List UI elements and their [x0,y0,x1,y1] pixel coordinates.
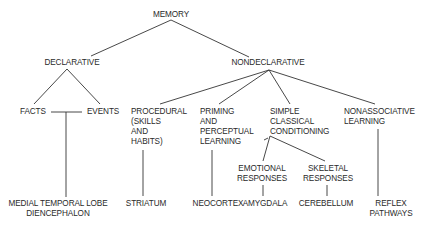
node-priming-line1: PRIMING [200,107,254,117]
node-procedural-line3: AND [131,127,187,137]
node-simple-line2: CLASSICAL [270,117,329,127]
node-emotional-responses: EMOTIONAL RESPONSES [237,164,287,184]
node-simple-line3: CONDITIONING [270,127,329,137]
node-procedural-line2: (SKILLS [131,117,187,127]
node-skeletal-responses: SKELETAL RESPONSES [303,164,353,184]
node-nonassociative-line2: LEARNING [344,117,415,127]
node-simple-line1: SIMPLE [270,107,329,117]
node-reflex-line1: REFLEX [369,199,412,209]
node-facts: FACTS [20,107,46,117]
node-nonassociative: NONASSOCIATIVE LEARNING [344,107,415,127]
node-priming-line4: LEARNING [200,137,254,147]
node-mtl-line2: DIENCEPHALON [8,209,107,219]
node-events: EVENTS [87,107,119,117]
node-emotional-line2: RESPONSES [237,174,287,184]
node-striatum: STRIATUM [126,199,166,209]
node-priming-line2: AND [200,117,254,127]
node-procedural: PROCEDURAL (SKILLS AND HABITS) [131,107,187,147]
node-medial-temporal-lobe: MEDIAL TEMPORAL LOBE DIENCEPHALON [8,199,107,219]
node-cerebellum: CEREBELLUM [299,199,354,209]
node-simple-classical-conditioning: SIMPLE CLASSICAL CONDITIONING [270,107,329,137]
node-reflex-pathways: REFLEX PATHWAYS [369,199,412,219]
node-priming-line3: PERCEPTUAL [200,127,254,137]
node-procedural-line4: HABITS) [131,137,187,147]
node-skeletal-line1: SKELETAL [303,164,353,174]
node-neocortex: NEOCORTEX [193,199,244,209]
node-skeletal-line2: RESPONSES [303,174,353,184]
node-memory: MEMORY [153,10,189,20]
node-declarative: DECLARATIVE [44,58,99,68]
node-priming: PRIMING AND PERCEPTUAL LEARNING [200,107,254,147]
node-reflex-line2: PATHWAYS [369,209,412,219]
node-procedural-line1: PROCEDURAL [131,107,187,117]
node-amygdala: AMYGDALA [243,199,288,209]
node-nonassociative-line1: NONASSOCIATIVE [344,107,415,117]
node-nondeclarative: NONDECLARATIVE [231,58,304,68]
node-emotional-line1: EMOTIONAL [237,164,287,174]
node-mtl-line1: MEDIAL TEMPORAL LOBE [8,199,107,209]
